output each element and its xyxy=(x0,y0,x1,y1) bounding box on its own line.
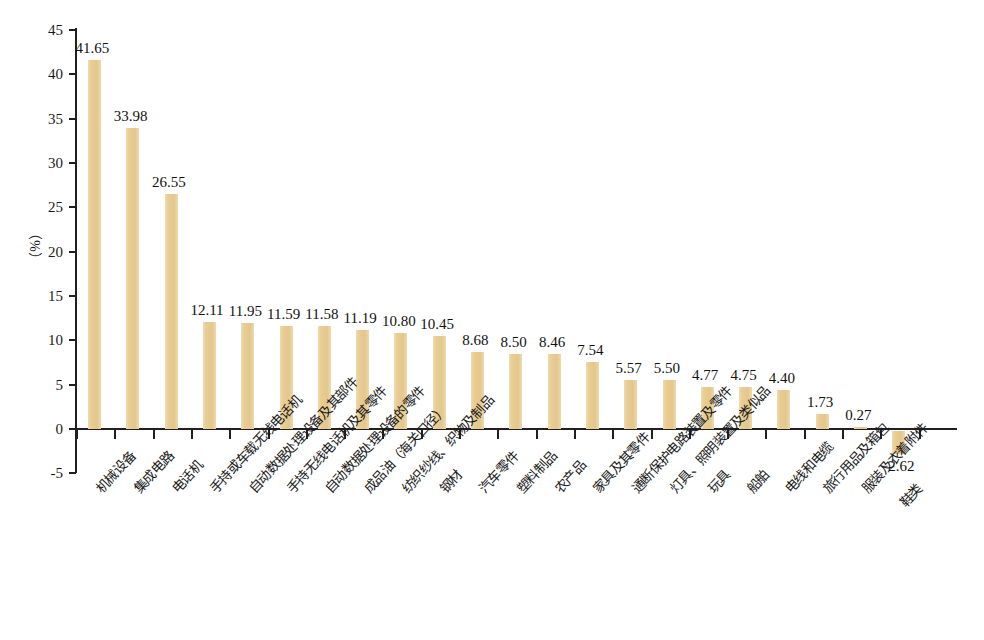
bar-value-label: 4.75 xyxy=(730,368,756,383)
y-axis-tick-label: 20 xyxy=(23,245,63,260)
y-axis-tick-label: 10 xyxy=(23,333,63,348)
bar-value-label: 41.65 xyxy=(76,41,110,56)
x-axis-category-label: 钢材 xyxy=(434,464,466,496)
x-axis-tick xyxy=(612,430,614,439)
bar-value-label: 7.54 xyxy=(577,343,603,358)
bar-value-label: 4.77 xyxy=(692,368,718,383)
bar xyxy=(165,194,178,429)
y-axis-tick-label: 35 xyxy=(23,112,63,127)
bar-value-label: 11.95 xyxy=(229,304,262,319)
y-axis-tick xyxy=(69,206,76,208)
bar xyxy=(624,380,637,429)
x-axis-tick xyxy=(153,430,155,439)
x-axis-category-label: 机械设备 xyxy=(90,446,139,497)
bar-value-label: 8.68 xyxy=(462,333,488,348)
x-axis-tick xyxy=(497,430,499,439)
bar-value-label: 1.73 xyxy=(807,395,833,410)
bar-value-label: 4.40 xyxy=(769,371,795,386)
bar xyxy=(88,60,101,429)
bar xyxy=(816,414,829,429)
x-axis-category-label: 集成电路 xyxy=(128,446,177,497)
x-axis-tick xyxy=(191,430,193,439)
bar xyxy=(586,362,599,429)
y-axis-tick-label: 15 xyxy=(23,289,63,304)
y-axis-tick xyxy=(69,73,76,75)
bar xyxy=(203,322,216,429)
y-axis-tick xyxy=(69,251,76,253)
bar-value-label: 10.80 xyxy=(382,314,416,329)
y-axis-tick xyxy=(69,472,76,474)
y-axis-tick xyxy=(69,339,76,341)
bar xyxy=(509,354,522,429)
y-axis-tick-label: 30 xyxy=(23,156,63,171)
y-axis-tick xyxy=(69,295,76,297)
bar-value-label: 0.27 xyxy=(845,408,871,423)
x-axis-tick xyxy=(765,430,767,439)
bar xyxy=(126,128,139,429)
bar-value-label: 8.46 xyxy=(539,335,565,350)
bar-value-label: 11.59 xyxy=(267,307,300,322)
bar xyxy=(241,323,254,429)
y-axis-tick-label: 5 xyxy=(23,378,63,393)
bar-value-label: 5.50 xyxy=(654,361,680,376)
bar xyxy=(548,354,561,429)
bar-value-label: 8.50 xyxy=(501,335,527,350)
x-axis-category-label: 鞋类 xyxy=(894,478,926,510)
bar-chart: （%） 454035302520151050-5 41.6533.9826.55… xyxy=(0,0,984,640)
x-axis-tick xyxy=(574,430,576,439)
y-axis-tick-label: 45 xyxy=(23,23,63,38)
y-axis-tick-label: 40 xyxy=(23,67,63,82)
y-axis-tick xyxy=(69,162,76,164)
x-axis-category-label: 汽车零件 xyxy=(473,446,522,497)
x-axis-tick xyxy=(76,430,78,439)
x-axis-tick xyxy=(804,430,806,439)
x-axis-tick xyxy=(536,430,538,439)
y-axis-tick-label: -5 xyxy=(23,466,63,481)
bar xyxy=(854,427,867,429)
bar-value-label: 10.45 xyxy=(420,317,454,332)
x-axis-tick xyxy=(842,430,844,439)
x-axis-category-label: 玩具 xyxy=(702,464,734,496)
bar-value-label: 11.58 xyxy=(305,307,338,322)
bar-value-label: 5.57 xyxy=(616,361,642,376)
bar xyxy=(663,380,676,429)
y-axis-tick xyxy=(69,118,76,120)
bar-value-label: 26.55 xyxy=(152,175,186,190)
bar-value-label: 12.11 xyxy=(190,303,223,318)
y-axis-tick-label: 0 xyxy=(23,422,63,437)
x-axis-category-label: 塑料制品 xyxy=(511,446,560,497)
bar xyxy=(777,390,790,429)
y-axis-tick xyxy=(69,29,76,31)
y-axis-tick-label: 25 xyxy=(23,200,63,215)
x-axis-tick xyxy=(114,430,116,439)
bar-value-label: 33.98 xyxy=(114,109,148,124)
x-axis-tick xyxy=(229,430,231,439)
y-axis-tick xyxy=(69,384,76,386)
x-axis-category-label: 船舶 xyxy=(741,464,773,496)
bar-value-label: 11.19 xyxy=(344,311,377,326)
